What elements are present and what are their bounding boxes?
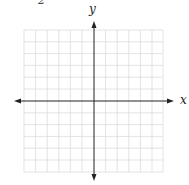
coordinate-plane: 2 x y <box>0 0 189 185</box>
x-axis-label: x <box>180 93 187 107</box>
problem-number: 2 <box>37 0 45 7</box>
x-axis-left-arrow-icon <box>14 99 21 104</box>
y-axis-up-arrow-icon <box>92 21 97 28</box>
y-axis-down-arrow-icon <box>92 174 97 181</box>
x-axis-right-arrow-icon <box>167 99 174 104</box>
y-axis-label: y <box>88 2 96 16</box>
